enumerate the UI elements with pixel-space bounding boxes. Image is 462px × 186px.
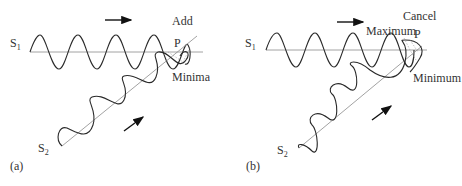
source-s2-label-a: S2 (38, 142, 49, 157)
source-s2-label-b: S2 (277, 144, 288, 159)
panel-caption-a: (a) (10, 160, 23, 172)
panel-b (266, 22, 427, 152)
add-label: Add (172, 15, 193, 27)
minima-label: Minima (172, 71, 210, 83)
point-p-label-b: P (414, 28, 421, 40)
minimum-label: Minimum (413, 72, 461, 84)
panel-caption-b: (b) (246, 160, 260, 172)
maximum-label: Maximum (366, 25, 416, 37)
cancel-label: Cancel (403, 10, 436, 22)
s2-axis-b (299, 46, 422, 148)
s2-direction-arrow-b (372, 106, 391, 120)
source-s1-label-b: S1 (245, 37, 256, 52)
s2-wave-b (298, 40, 422, 152)
point-p-label-a: P (174, 37, 181, 49)
s2-direction-arrow-a (124, 117, 143, 131)
source-s1-label-a: S1 (10, 37, 21, 52)
s2-axis-a (62, 36, 197, 146)
